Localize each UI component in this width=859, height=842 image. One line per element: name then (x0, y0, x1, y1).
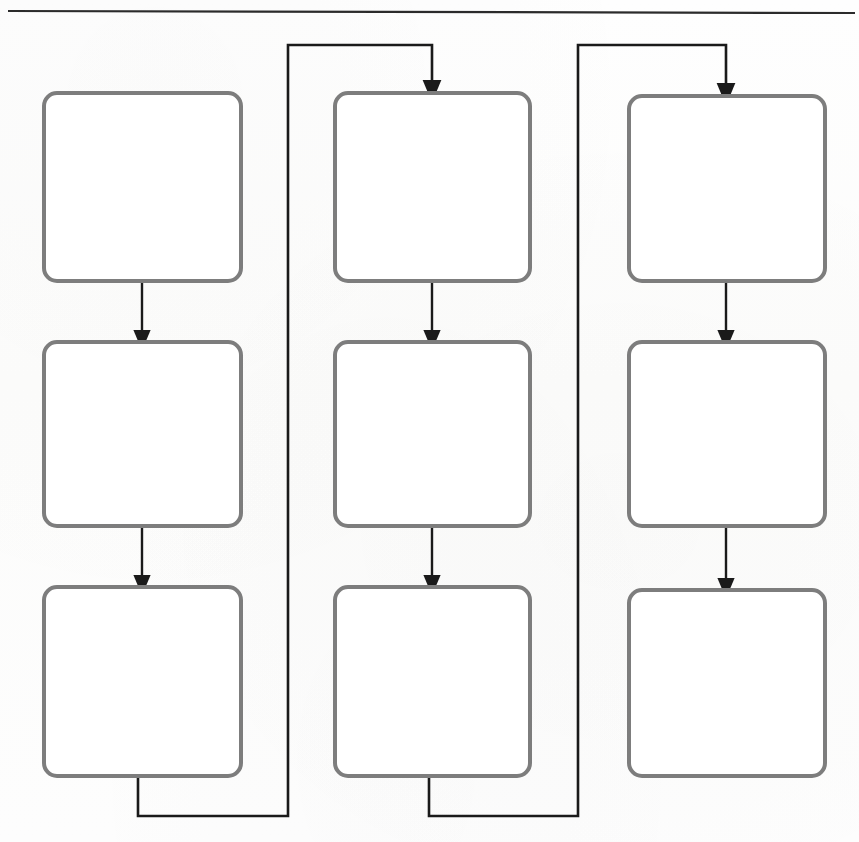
column-3 (629, 96, 825, 776)
process-node-c1r3[interactable] (44, 587, 241, 776)
process-node-layer (44, 93, 825, 776)
process-node-c3r1[interactable] (629, 96, 825, 281)
horizontal-rule (8, 11, 855, 13)
process-node-box[interactable] (335, 342, 530, 526)
process-node-box[interactable] (629, 342, 825, 526)
column-1 (44, 93, 241, 776)
process-node-box[interactable] (44, 93, 241, 281)
process-node-c2r2[interactable] (335, 342, 530, 526)
process-node-box[interactable] (335, 587, 530, 776)
process-node-c3r2[interactable] (629, 342, 825, 526)
column-2 (335, 93, 530, 776)
header-rule-group (8, 11, 855, 13)
process-node-box[interactable] (629, 96, 825, 281)
process-node-c2r3[interactable] (335, 587, 530, 776)
diagram-page (0, 0, 859, 842)
process-node-c1r1[interactable] (44, 93, 241, 281)
process-node-box[interactable] (44, 342, 241, 526)
process-node-box[interactable] (44, 587, 241, 776)
process-node-c2r1[interactable] (335, 93, 530, 281)
process-node-box[interactable] (629, 590, 825, 776)
process-node-box[interactable] (335, 93, 530, 281)
process-node-c1r2[interactable] (44, 342, 241, 526)
flowchart-diagram (0, 0, 859, 842)
process-node-c3r3[interactable] (629, 590, 825, 776)
